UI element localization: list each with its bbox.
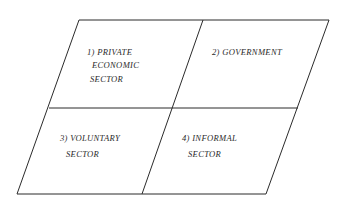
quadrant-label-line: 1) PRIVATE [87,47,133,57]
quadrant-voluntary-sector: 3) VOLUNTARY SECTOR [59,133,121,159]
vertical-divider [142,20,203,194]
quadrant-label-line: ECONOMIC [91,60,139,70]
sector-diagram: 1) PRIVATE ECONOMIC SECTOR 2) GOVERNMENT… [0,0,342,208]
quadrant-government: 2) GOVERNMENT [212,47,283,57]
quadrant-label-line: 4) INFORMAL [182,133,237,143]
quadrant-label-line: 3) VOLUNTARY [59,133,121,143]
quadrant-label-line: 2) GOVERNMENT [212,47,283,57]
quadrant-label-line: SECTOR [90,74,124,84]
quadrant-label-line: SECTOR [188,149,222,159]
quadrant-private-economic-sector: 1) PRIVATE ECONOMIC SECTOR [87,47,139,84]
quadrant-informal-sector: 4) INFORMAL SECTOR [182,133,237,159]
quadrant-label-line: SECTOR [66,149,100,159]
